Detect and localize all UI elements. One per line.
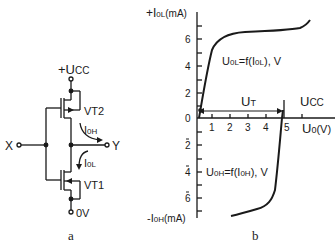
- curve-uoh: [231, 110, 283, 216]
- input-label: X: [5, 139, 13, 153]
- y-axis-bottom-label: -I0H(mA): [147, 212, 186, 224]
- input-terminal: [17, 143, 21, 147]
- svg-text:4: 4: [263, 122, 269, 133]
- caption-b: b: [252, 228, 259, 243]
- svg-text:4: 4: [185, 61, 191, 72]
- output-characteristic-chart: [197, 12, 335, 218]
- x-tick-labels: 1 2 3 4 5: [209, 122, 290, 133]
- supply-label: +UCC: [58, 62, 89, 77]
- output-label: Y: [112, 139, 120, 153]
- svg-text:5: 5: [284, 122, 290, 133]
- vt1-label: VT1: [84, 179, 104, 191]
- cmos-inverter-circuit: [17, 77, 109, 214]
- transistor-vt1-icon: [61, 146, 80, 199]
- x-axis-label: U0(V): [302, 121, 331, 136]
- ground-label: 0V: [76, 207, 90, 219]
- figure: +UCC VT2 VT1 I0H I0L X Y 0V a: [0, 0, 336, 252]
- curve-uoh-label: U0H=f(I0H), V: [206, 166, 268, 178]
- ioh-label: I0H: [84, 124, 98, 136]
- caption-a: a: [68, 228, 74, 243]
- vcc-label: UCC: [300, 94, 324, 109]
- output-terminal: [105, 143, 109, 147]
- vt2-label: VT2: [84, 105, 104, 117]
- svg-text:2: 2: [185, 88, 191, 99]
- iol-label: I0L: [84, 157, 97, 169]
- curve-uol-label: U0L=f(I0L), V: [222, 55, 282, 67]
- svg-text:3: 3: [245, 122, 251, 133]
- transistor-vt2-icon: [61, 91, 80, 146]
- y-axis-top-label: +I0L(mA): [146, 6, 187, 20]
- svg-text:1: 1: [209, 122, 215, 133]
- svg-text:6: 6: [185, 193, 191, 204]
- svg-text:2: 2: [227, 122, 233, 133]
- svg-text:2: 2: [185, 140, 191, 151]
- y-tick-labels: 6 4 2 0 2 4 6: [185, 34, 191, 204]
- threshold-label: UT: [241, 94, 256, 109]
- ground-terminal: [69, 210, 73, 214]
- svg-text:6: 6: [185, 34, 191, 45]
- svg-text:4: 4: [185, 167, 191, 178]
- svg-text:0: 0: [185, 113, 191, 124]
- supply-terminal: [69, 77, 73, 81]
